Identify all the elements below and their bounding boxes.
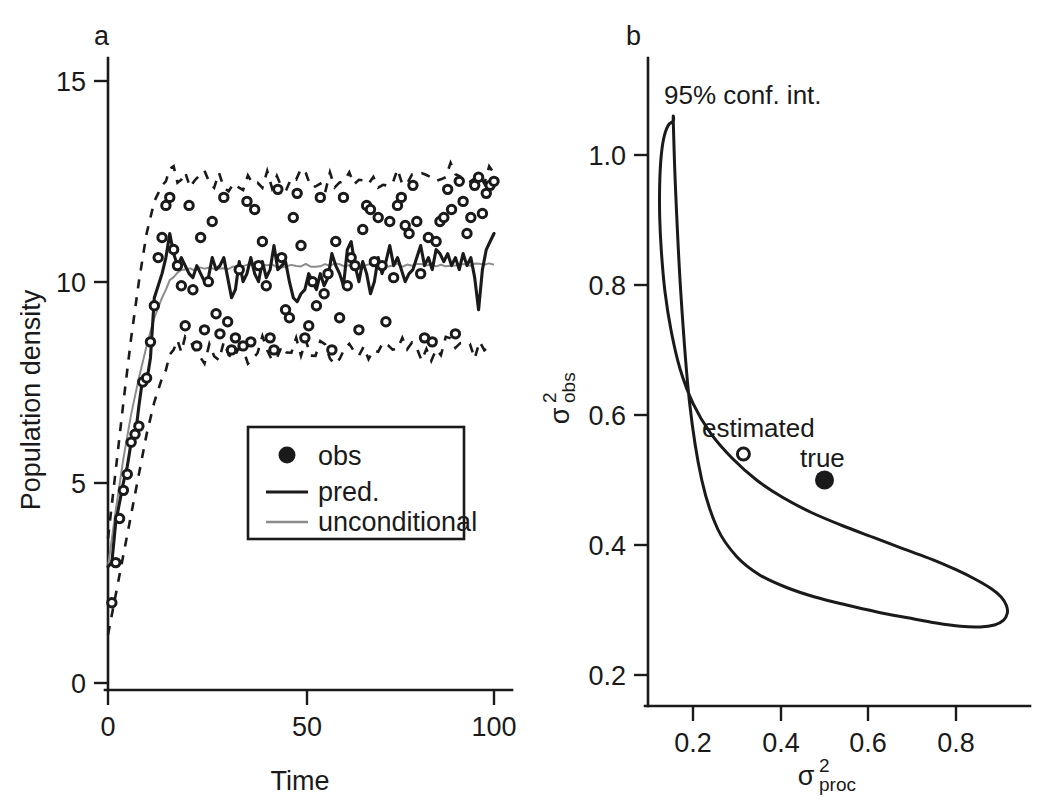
obs-marker xyxy=(177,281,185,289)
obs-marker xyxy=(220,193,228,201)
obs-marker xyxy=(115,514,123,522)
obs-marker xyxy=(332,237,340,245)
obs-marker xyxy=(455,177,463,185)
obs-markers xyxy=(108,173,499,607)
figure-svg: a 0 5 10 15 0 50 xyxy=(0,0,1039,808)
obs-marker xyxy=(374,213,382,221)
obs-marker xyxy=(158,233,166,241)
obs-marker xyxy=(169,245,177,253)
panel-b-x-axis-subscript: proc xyxy=(819,774,856,795)
obs-marker xyxy=(150,302,158,310)
obs-marker xyxy=(135,422,143,430)
obs-marker xyxy=(389,273,397,281)
obs-marker xyxy=(382,318,390,326)
legend-label-obs: obs xyxy=(318,441,362,471)
panel-b-y-axis-title: σ 2 obs xyxy=(539,372,579,424)
obs-marker xyxy=(278,253,286,261)
obs-marker xyxy=(196,233,204,241)
panel-a-yticklabel-0: 0 xyxy=(71,669,86,699)
legend-marker-obs xyxy=(279,447,296,464)
panel-a-yticklabel-15: 15 xyxy=(56,67,86,97)
obs-marker xyxy=(413,217,421,225)
estimated-label: estimated xyxy=(702,413,815,443)
obs-marker xyxy=(428,338,436,346)
obs-marker xyxy=(185,201,193,209)
obs-marker xyxy=(339,193,347,201)
panel-a-yticklabel-5: 5 xyxy=(71,469,86,499)
panel-b-y-ticks: 0.2 0.4 0.6 0.8 1.0 xyxy=(588,141,648,691)
true-point-marker xyxy=(815,471,834,490)
panel-b-x-ticks: 0.2 0.4 0.6 0.8 xyxy=(674,706,975,758)
obs-marker xyxy=(440,213,448,221)
obs-marker xyxy=(181,322,189,330)
obs-marker xyxy=(216,330,224,338)
panel-b-yticklabel-0_2: 0.2 xyxy=(588,661,626,691)
panel-a-xticklabel-0: 0 xyxy=(100,712,115,742)
obs-marker xyxy=(328,346,336,354)
panel-b-y-axis-subscript: obs xyxy=(558,372,579,403)
obs-marker xyxy=(366,205,374,213)
obs-marker xyxy=(262,281,270,289)
obs-marker xyxy=(258,237,266,245)
obs-marker xyxy=(112,558,120,566)
panel-b-x-axis-title: σ 2 proc xyxy=(798,755,856,795)
obs-marker xyxy=(355,326,363,334)
obs-marker xyxy=(359,225,367,233)
obs-marker xyxy=(193,342,201,350)
panel-a-yticklabel-10: 10 xyxy=(56,268,86,298)
panel-b: b 0.2 0.4 0.6 0.8 1.0 0.2 xyxy=(539,21,1030,795)
obs-marker xyxy=(166,193,174,201)
obs-marker xyxy=(189,285,197,293)
obs-marker xyxy=(447,205,455,213)
true-label: true xyxy=(800,443,845,473)
obs-marker xyxy=(274,185,282,193)
obs-marker xyxy=(266,334,274,342)
obs-marker xyxy=(490,177,498,185)
estimated-point-marker xyxy=(737,448,749,460)
obs-marker xyxy=(154,253,162,261)
obs-marker xyxy=(301,334,309,342)
panel-b-yticklabel-0_6: 0.6 xyxy=(588,401,626,431)
obs-marker xyxy=(289,213,297,221)
obs-marker xyxy=(119,486,127,494)
obs-marker xyxy=(297,241,305,249)
panel-a: a 0 5 10 15 0 50 xyxy=(16,21,517,796)
obs-marker xyxy=(432,237,440,245)
panel-b-xticklabel-0_2: 0.2 xyxy=(674,728,712,758)
obs-marker xyxy=(285,314,293,322)
panel-b-label: b xyxy=(626,21,641,51)
panel-b-data xyxy=(659,116,1007,627)
obs-marker xyxy=(250,205,258,213)
panel-b-yticklabel-0_4: 0.4 xyxy=(588,531,626,561)
obs-marker xyxy=(146,338,154,346)
panel-a-xticklabel-100: 100 xyxy=(471,712,516,742)
panel-a-xticklabel-50: 50 xyxy=(292,712,322,742)
panel-a-data xyxy=(108,163,499,635)
obs-marker xyxy=(108,599,116,607)
obs-marker xyxy=(351,261,359,269)
obs-marker xyxy=(254,261,262,269)
obs-marker xyxy=(320,290,328,298)
obs-marker xyxy=(142,374,150,382)
obs-marker xyxy=(208,217,216,225)
panel-b-xticklabel-0_4: 0.4 xyxy=(762,728,800,758)
obs-marker xyxy=(378,261,386,269)
panel-a-x-ticks: 0 50 100 xyxy=(100,690,516,742)
panel-b-x-axis-sigma: σ xyxy=(798,761,815,791)
panel-b-yticklabel-0_8: 0.8 xyxy=(588,271,626,301)
obs-marker xyxy=(305,322,313,330)
obs-marker xyxy=(243,197,251,205)
obs-marker xyxy=(293,189,301,197)
obs-marker xyxy=(451,330,459,338)
obs-marker xyxy=(397,193,405,201)
obs-marker xyxy=(405,229,413,237)
obs-marker xyxy=(212,310,220,318)
panel-b-x-axis-superscript: 2 xyxy=(819,755,830,776)
panel-b-xticklabel-0_8: 0.8 xyxy=(937,728,975,758)
obs-marker xyxy=(223,318,231,326)
obs-marker xyxy=(173,261,181,269)
obs-marker xyxy=(204,277,212,285)
panel-a-x-axis-title: Time xyxy=(271,766,330,796)
panel-b-y-axis-sigma: σ xyxy=(545,407,575,424)
obs-marker xyxy=(459,197,467,205)
